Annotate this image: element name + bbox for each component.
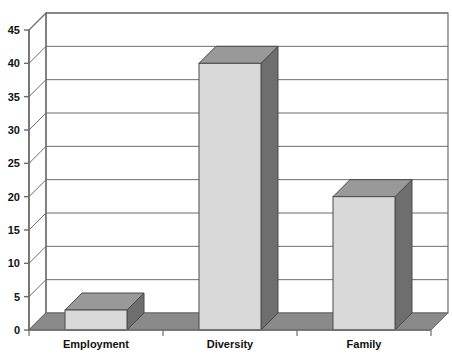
y-tick-label-5: 5 xyxy=(14,291,20,303)
gridline-depth-25 xyxy=(29,146,46,163)
bar-side-face-1 xyxy=(261,46,278,330)
bar-chart: 051015202530354045EmploymentDiversityFam… xyxy=(0,0,452,360)
x-category-label-family: Family xyxy=(347,338,383,350)
y-tick-label-15: 15 xyxy=(8,224,20,236)
y-tick-label-20: 20 xyxy=(8,191,20,203)
bar-front-face-1 xyxy=(199,63,261,330)
y-tick-label-45: 45 xyxy=(8,24,20,36)
y-tick-label-0: 0 xyxy=(14,324,20,336)
y-tick-label-35: 35 xyxy=(8,91,20,103)
gridline-depth-30 xyxy=(29,113,46,130)
bar-diversity xyxy=(199,46,278,330)
gridline-depth-10 xyxy=(29,246,46,263)
y-tick-label-10: 10 xyxy=(8,257,20,269)
y-tick-label-30: 30 xyxy=(8,124,20,136)
gridline-depth-15 xyxy=(29,213,46,230)
gridline-depth-40 xyxy=(29,46,46,63)
bar-family xyxy=(333,180,412,330)
bar-employment xyxy=(65,293,144,330)
chart-canvas: 051015202530354045EmploymentDiversityFam… xyxy=(0,0,452,360)
bar-front-face-2 xyxy=(333,197,395,330)
bar-front-face-0 xyxy=(65,310,127,330)
gridline-depth-5 xyxy=(29,280,46,297)
y-tick-label-40: 40 xyxy=(8,57,20,69)
bar-side-face-2 xyxy=(395,180,412,330)
x-category-label-diversity: Diversity xyxy=(207,338,254,350)
gridline-depth-20 xyxy=(29,180,46,197)
x-category-label-employment: Employment xyxy=(63,338,129,350)
gridline-depth-35 xyxy=(29,80,46,97)
y-tick-label-25: 25 xyxy=(8,157,20,169)
